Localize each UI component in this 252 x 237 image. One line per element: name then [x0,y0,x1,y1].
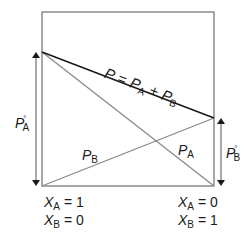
pb-sub: B [91,154,98,165]
left-xb-label: XB = 0 [44,213,84,230]
pa-star-degree: ° [23,114,26,123]
xa-val: = 0 [194,194,218,210]
xb-var: X [178,212,187,228]
xa-sub: A [53,201,60,212]
pb-main: P [82,147,91,163]
xb-val: = 1 [194,212,218,228]
xa-var: X [44,194,53,210]
xa-sub: A [187,201,194,212]
pa-main: P [178,142,187,158]
xb-var: X [44,212,53,228]
right-xa-label: XA = 0 [178,195,218,212]
left-xa-label: XA = 1 [44,195,84,212]
pa-line-label: PA [178,143,194,160]
xa-var: X [178,194,187,210]
xa-val: = 1 [60,194,84,210]
pa-sub: A [187,149,194,160]
pb-line-label: PB [82,148,98,165]
right-xb-label: XB = 1 [178,213,218,230]
xb-sub: B [53,219,60,230]
pa-star-label: P°A [15,116,29,133]
xb-val: = 0 [60,212,84,228]
pb-star-degree: ° [234,144,237,153]
pb-star-label: P°B [226,146,240,163]
xb-sub: B [187,219,194,230]
